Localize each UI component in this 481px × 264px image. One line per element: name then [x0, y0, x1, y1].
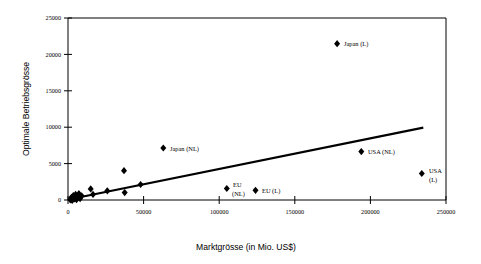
x-tick-label-0: 0	[66, 208, 69, 215]
trend-line	[69, 128, 424, 200]
data-point-marker	[121, 167, 127, 174]
y-axis-title: Optimale Betriebsgrösse	[21, 62, 31, 156]
y-tick-label-10000: 10000	[46, 123, 61, 130]
x-tick-label-100000: 100000	[210, 208, 229, 215]
y-tick-label-5000: 5000	[49, 160, 61, 167]
y-tick-label-20000: 20000	[46, 51, 61, 58]
data-point-marker	[122, 189, 128, 196]
data-point-marker-usa-nl	[358, 148, 364, 155]
y-axis-tick-labels: 0 5000 10000 15000 20000 25000	[46, 14, 61, 203]
label-eu-nl-line1: EU	[233, 181, 242, 188]
x-axis-title: Marktgrösse (in Mio. US$)	[196, 242, 296, 252]
y-tick-label-0: 0	[58, 196, 61, 203]
label-japan-nl: Japan (NL)	[170, 145, 199, 153]
data-points	[67, 40, 425, 204]
x-tick-label-50000: 50000	[136, 208, 151, 215]
y-tick-label-25000: 25000	[46, 14, 61, 21]
label-usa-l-line2: (L)	[429, 176, 437, 184]
chart-canvas: 0 5000 10000 15000 20000 25000 0 50000 1…	[0, 0, 481, 264]
data-point-marker	[104, 187, 110, 194]
scatter-chart-figure: 0 5000 10000 15000 20000 25000 0 50000 1…	[0, 0, 481, 264]
data-point-marker-eu-l	[253, 187, 259, 194]
data-point-marker-japan-nl	[160, 144, 166, 151]
label-japan-l: Japan (L)	[344, 40, 368, 48]
x-tick-label-150000: 150000	[286, 208, 305, 215]
data-point-marker-usa-l	[419, 170, 425, 177]
data-point-labels: Japan (L) Japan (NL) USA (NL) USA (L) EU…	[170, 40, 442, 198]
label-usa-nl: USA (NL)	[368, 148, 395, 156]
data-point-marker	[138, 181, 144, 188]
label-usa-l-line1: USA	[429, 167, 442, 174]
x-tick-label-200000: 200000	[361, 208, 380, 215]
y-tick-label-15000: 15000	[46, 87, 61, 94]
x-tick-label-250000: 250000	[437, 208, 456, 215]
data-point-marker-japan-l	[334, 40, 340, 47]
label-eu-l: EU (L)	[262, 187, 280, 195]
x-axis-tick-labels: 0 50000 100000 150000 200000 250000	[66, 208, 455, 215]
data-point-marker-eu-nl	[224, 185, 230, 192]
label-eu-nl-line2: (NL)	[232, 190, 245, 198]
